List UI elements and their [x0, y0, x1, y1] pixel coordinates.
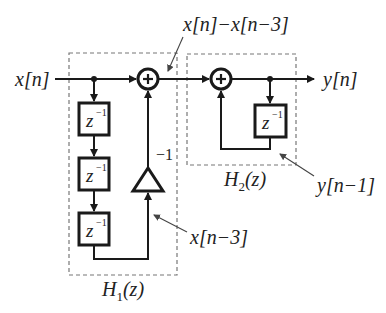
delayed-output-label: y[n−1]: [315, 174, 375, 197]
adder-2: [211, 69, 231, 89]
delay-z-text: z: [85, 165, 94, 186]
intermediate-label: x[n]−x[n−3]: [182, 13, 289, 35]
h2-label: H2(z): [223, 168, 266, 194]
intermediate-pointer: [168, 37, 183, 71]
delay-block-3: z −1: [79, 213, 109, 245]
delayed-input-label: x[n−3]: [189, 226, 248, 248]
output-label: y[n]: [321, 68, 357, 91]
delay-z-text: z: [261, 112, 270, 133]
delay-exp-text: −1: [272, 109, 283, 120]
delay-block-2: z −1: [79, 158, 109, 190]
delay-exp-text: −1: [96, 217, 107, 228]
gain-triangle: [133, 168, 163, 191]
delay-exp-text: −1: [96, 162, 107, 173]
delay-z-text: z: [85, 220, 94, 241]
delay-block-1: z −1: [79, 103, 109, 135]
block-diagram: z −1 z −1 z −1 −1 z −1 x[n]: [0, 0, 386, 313]
delay-exp-text: −1: [96, 107, 107, 118]
h2-delay-block: z −1: [255, 105, 286, 137]
h1-label: H1(z): [101, 278, 144, 304]
adder-1: [138, 69, 158, 89]
delayed-output-pointer: [280, 154, 314, 176]
delay-z-text: z: [85, 110, 94, 131]
delayed-input-pointer: [154, 215, 187, 232]
gain-label: −1: [156, 146, 173, 163]
input-label: x[n]: [14, 68, 49, 90]
